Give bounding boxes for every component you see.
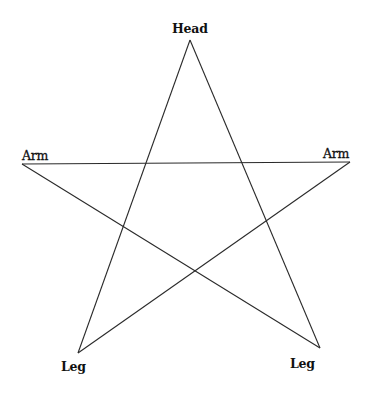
label-head: Head [172,23,208,36]
line-head-to-leg-right [190,40,320,348]
label-leg-right: Leg [290,358,315,371]
label-arm-left: Arm [22,150,48,163]
line-arm-left-to-arm-right [22,162,350,164]
label-arm-right: Arm [323,148,349,161]
label-leg-left: Leg [61,361,86,374]
pentagram-diagram [0,0,371,399]
line-arm-left-to-leg-right [22,164,320,348]
line-head-to-leg-left [78,40,190,353]
line-arm-right-to-leg-left [78,162,350,353]
